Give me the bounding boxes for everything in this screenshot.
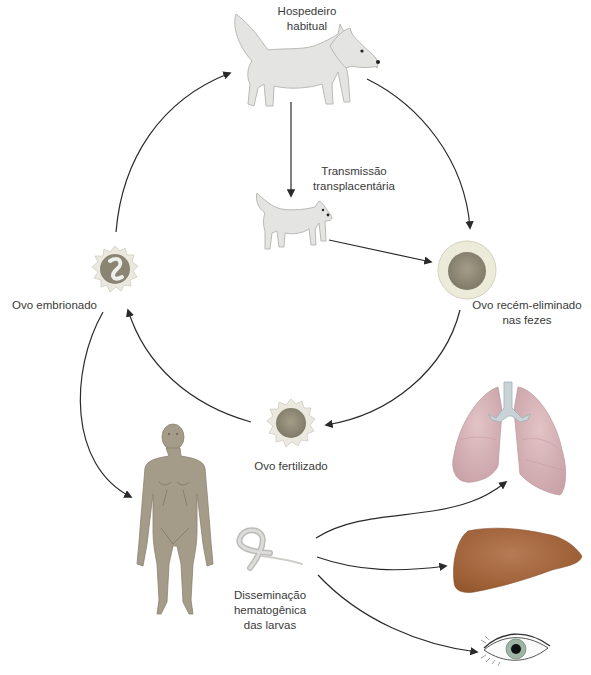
embryonated-egg-icon xyxy=(92,246,138,292)
liver-icon xyxy=(454,528,582,592)
arrow-fertilized-to-embryonated xyxy=(128,310,251,422)
human-figure-icon xyxy=(137,424,213,614)
label-line: nas fezes xyxy=(468,313,586,328)
label-larvae-dissemination: Disseminação hematogênica das larvas xyxy=(228,588,312,633)
label-line: Disseminação xyxy=(228,588,312,603)
cycle-arrows xyxy=(80,73,506,652)
label-transplacental: Transmissão transplacentária xyxy=(304,164,404,194)
arrow-larvae-to-eye xyxy=(318,575,477,652)
label-line: Ovo embrionado xyxy=(12,298,97,313)
label-line: Ovo recém-eliminado xyxy=(468,298,586,313)
label-line: hematogênica xyxy=(228,603,312,618)
label-line: transplacentária xyxy=(304,179,404,194)
label-line: Transmissão xyxy=(304,164,404,179)
label-line: Ovo fertilizado xyxy=(246,459,336,474)
arrow-host-to-fresh-egg xyxy=(367,79,470,228)
eye-icon xyxy=(481,634,550,666)
life-cycle-diagram xyxy=(0,0,591,675)
arrow-larvae-to-liver xyxy=(317,557,446,570)
label-embryonated-egg: Ovo embrionado xyxy=(12,298,97,313)
label-line: Hospedeiro xyxy=(262,4,352,19)
label-definitive-host: Hospedeiro habitual xyxy=(262,4,352,34)
label-fertilized-egg: Ovo fertilizado xyxy=(246,459,336,474)
larva-icon xyxy=(239,530,302,568)
arrow-embryonated-to-human xyxy=(80,312,131,497)
puppy-icon xyxy=(256,193,331,249)
fertilized-egg-icon xyxy=(267,399,315,447)
arrow-puppy-to-fresh-egg xyxy=(329,240,431,262)
arrow-fresh-to-fertilized xyxy=(326,310,460,425)
lungs-icon xyxy=(453,382,566,495)
fresh-egg-icon xyxy=(438,241,496,299)
label-line: habitual xyxy=(262,19,352,34)
label-line: das larvas xyxy=(228,618,312,633)
label-fresh-egg: Ovo recém-eliminado nas fezes xyxy=(468,298,586,328)
arrow-embryonated-to-host xyxy=(116,73,230,232)
